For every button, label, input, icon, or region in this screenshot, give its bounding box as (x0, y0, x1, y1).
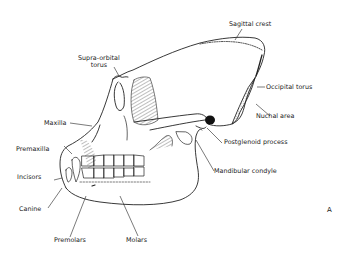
face-outline (60, 79, 113, 188)
label-maxilla: Maxilla (44, 120, 66, 127)
label-supra-orbital-torus: Supra-orbital torus (78, 55, 120, 69)
label-molars: Molars (126, 237, 147, 244)
label-line: torus (78, 62, 120, 69)
panel-letter: A (327, 206, 332, 214)
label-premolars: Premolars (54, 237, 86, 244)
label-mandibular-condyle: Mandibular condyle (214, 168, 277, 175)
label-occipital-torus: Occipital torus (266, 84, 312, 91)
orbit (114, 82, 124, 111)
nuchal-area-shape (232, 78, 255, 124)
auditory-meatus (205, 116, 215, 125)
temporal-fossa (131, 77, 158, 125)
label-premaxilla: Premaxilla (16, 146, 49, 153)
label-nuchal-area: Nuchal area (256, 113, 294, 120)
skull-illustration (0, 0, 346, 257)
teeth-row (66, 155, 144, 182)
label-sagittal-crest: Sagittal crest (229, 21, 271, 28)
label-incisors: Incisors (17, 174, 41, 181)
label-postglenoid-process: Postglenoid process (224, 139, 288, 146)
label-canine: Canine (19, 206, 41, 213)
